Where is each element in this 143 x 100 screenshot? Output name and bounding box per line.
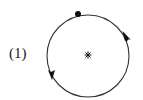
start-dot bbox=[75, 11, 81, 17]
asterisk-icon bbox=[85, 52, 92, 59]
orbit-diagram bbox=[0, 0, 143, 100]
